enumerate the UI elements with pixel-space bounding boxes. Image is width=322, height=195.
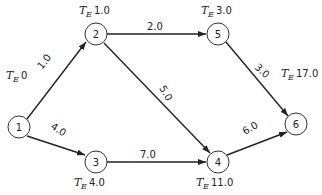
edge-label-2-5: 2.0 (147, 21, 163, 32)
svg-text:2: 2 (93, 29, 99, 40)
edge-3-4: 7.0 (107, 149, 206, 162)
svg-text:3: 3 (93, 157, 99, 168)
svg-text:E: E (287, 73, 294, 82)
svg-text:6: 6 (293, 119, 299, 130)
te-label-node-5: T E 3.0 (201, 4, 232, 19)
edge-2-4: 5.0 (104, 43, 210, 153)
svg-text:0: 0 (21, 70, 27, 81)
svg-text:E: E (207, 10, 214, 19)
svg-text:4.0: 4.0 (89, 177, 105, 188)
node-3: 3 (85, 151, 107, 173)
node-4: 4 (207, 151, 229, 173)
svg-text:17.0: 17.0 (296, 68, 318, 79)
edge-label-2-4: 5.0 (157, 84, 174, 103)
svg-text:E: E (12, 75, 19, 84)
svg-text:1: 1 (16, 122, 22, 133)
edge-label-1-3: 4.0 (49, 120, 68, 138)
svg-text:3.0: 3.0 (216, 5, 232, 16)
svg-text:11.0: 11.0 (211, 177, 233, 188)
svg-text:5: 5 (215, 29, 221, 40)
svg-text:E: E (80, 182, 87, 191)
edge-label-3-4: 7.0 (140, 149, 156, 160)
te-label-node-6: T E 17.0 (281, 67, 318, 82)
edge-label-4-6: 6.0 (241, 119, 260, 136)
svg-text:E: E (85, 10, 92, 19)
te-label-node-4: T E 11.0 (196, 176, 233, 191)
svg-text:4: 4 (215, 157, 221, 168)
te-label-node-1: T E 0 (6, 69, 27, 84)
edge-2-5: 2.0 (107, 21, 206, 34)
svg-text:E: E (202, 182, 209, 191)
node-6: 6 (285, 113, 307, 135)
node-2: 2 (85, 23, 107, 45)
te-label-node-3: T E 4.0 (74, 176, 105, 191)
svg-text:1.0: 1.0 (94, 5, 110, 16)
edge-1-2: 1.0 (27, 42, 86, 119)
node-5: 5 (207, 23, 229, 45)
edge-4-6: 6.0 (227, 119, 287, 155)
te-label-node-2: T E 1.0 (79, 4, 110, 19)
node-1: 1 (8, 116, 30, 138)
network-diagram: 1.0 4.0 2.0 5.0 7.0 3.0 6.0 1 2 3 4 (0, 0, 322, 195)
edge-label-1-2: 1.0 (35, 52, 53, 71)
edge-1-3: 4.0 (27, 120, 85, 155)
edge-5-6: 3.0 (226, 42, 288, 116)
